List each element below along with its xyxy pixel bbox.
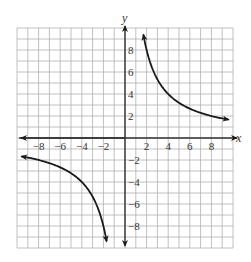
y-tick-label: −4	[128, 176, 140, 188]
y-tick-label: −2	[128, 154, 140, 166]
x-tick-label: 2	[144, 140, 150, 152]
x-tick-label: 6	[187, 140, 193, 152]
x-axis-label: x	[235, 131, 242, 145]
x-tick-label: −8	[33, 140, 45, 152]
x-tick-label: 8	[209, 140, 215, 152]
y-tick-label: 4	[128, 88, 134, 100]
y-tick-label: 8	[128, 44, 134, 56]
x-tick-label: −4	[76, 140, 88, 152]
y-tick-label: −8	[128, 220, 140, 232]
y-tick-label: 6	[128, 66, 134, 78]
y-tick-label: −6	[128, 198, 140, 210]
y-tick-label: 2	[128, 110, 134, 122]
x-tick-label: −6	[54, 140, 66, 152]
y-axis-label: y	[121, 11, 128, 25]
curve-branch-negative	[21, 156, 106, 241]
hyperbola-graph: −8−6−4−224688642−2−4−6−8 x y	[0, 0, 251, 262]
curve-branch-positive	[143, 34, 228, 119]
axes	[19, 26, 237, 246]
x-tick-label: −2	[98, 140, 110, 152]
x-tick-label: 4	[165, 140, 171, 152]
